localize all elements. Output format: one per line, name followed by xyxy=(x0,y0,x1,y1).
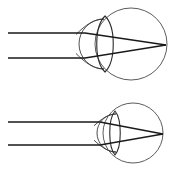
crystalline-lens-top xyxy=(97,16,114,72)
eye-accommodation-figure: Eye accommodation ray diagram xyxy=(0,0,175,177)
crystalline-lens-bottom xyxy=(110,111,121,155)
ray-diagram-canvas xyxy=(0,0,175,177)
light-ray-upper-top xyxy=(8,33,166,45)
panel-top-accommodated-eye xyxy=(8,8,167,80)
light-ray-lower-bottom xyxy=(8,134,163,145)
light-ray-lower-top xyxy=(8,45,166,58)
panel-bottom-relaxed-eye xyxy=(8,103,163,163)
light-ray-upper-bottom xyxy=(8,122,163,134)
cornea-arc-top xyxy=(79,19,104,69)
